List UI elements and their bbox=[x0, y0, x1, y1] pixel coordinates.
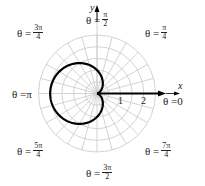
fraction-denominator: 4 bbox=[164, 151, 168, 159]
angle-fraction: π4 bbox=[161, 24, 167, 41]
angle-label-prefix: θ = bbox=[17, 145, 31, 157]
angle-label-pi-4: θ = π4 bbox=[145, 24, 167, 41]
angle-label-prefix: θ = bbox=[86, 14, 100, 26]
angle-label-prefix: θ = bbox=[145, 145, 159, 157]
angle-label-3pi-2: θ = 3π2 bbox=[86, 164, 112, 181]
angle-fraction: 3π4 bbox=[33, 24, 43, 41]
angle-label-0: θ = 0 bbox=[163, 95, 183, 107]
angle-label-prefix: θ = bbox=[86, 167, 100, 179]
angle-label-pi-2: θ = π2 bbox=[86, 11, 108, 28]
angle-fraction: 7π4 bbox=[161, 142, 171, 159]
angle-label-value: π bbox=[26, 88, 32, 100]
angle-fraction: π2 bbox=[102, 11, 108, 28]
fraction-denominator: 4 bbox=[36, 33, 40, 41]
angle-label-pi: θ = π bbox=[12, 88, 32, 100]
angle-label-7pi-4: θ = 7π4 bbox=[145, 142, 171, 159]
angle-label-value: 0 bbox=[177, 95, 183, 107]
angle-label-5pi-4: θ = 5π4 bbox=[17, 142, 43, 159]
angle-fraction: 5π4 bbox=[33, 142, 43, 159]
angle-label-prefix: θ = bbox=[12, 88, 26, 100]
angle-label-3pi-4: θ = 3π4 bbox=[17, 24, 43, 41]
radial-tick-1: 1 bbox=[118, 95, 123, 106]
fraction-denominator: 4 bbox=[36, 151, 40, 159]
fraction-denominator: 4 bbox=[162, 33, 166, 41]
angle-label-prefix: θ = bbox=[145, 27, 159, 39]
angle-fraction: 3π2 bbox=[102, 164, 112, 181]
fraction-denominator: 2 bbox=[105, 173, 109, 181]
x-axis-label: x bbox=[178, 80, 182, 91]
angle-label-prefix: θ = bbox=[17, 27, 31, 39]
fraction-denominator: 2 bbox=[103, 20, 107, 28]
radial-tick-2: 2 bbox=[141, 95, 146, 106]
angle-label-prefix: θ = bbox=[163, 95, 177, 107]
